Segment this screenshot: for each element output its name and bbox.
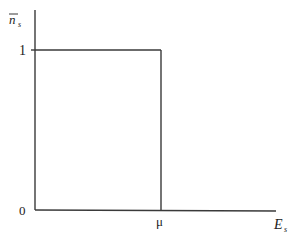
y-tick-label-one: 1 <box>19 43 26 58</box>
step-function-chart: n s 1 0 μ E s <box>0 0 297 239</box>
y-axis-label-sub: s <box>18 20 21 29</box>
x-axis-label-main: E <box>273 217 283 232</box>
x-tick-label-mu: μ <box>156 214 163 229</box>
x-axis <box>35 210 276 211</box>
y-tick-label-zero: 0 <box>19 203 26 218</box>
y-axis-label: n s <box>9 12 21 29</box>
y-axis-label-main: n <box>9 12 16 27</box>
x-axis-label-sub: s <box>284 225 287 234</box>
x-axis-label: E s <box>273 217 287 234</box>
